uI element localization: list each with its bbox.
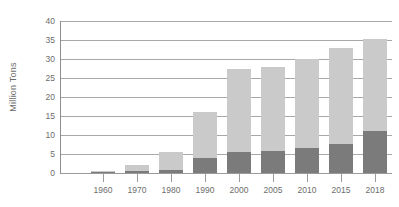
x-axis-tick-mark	[137, 174, 138, 182]
y-axis-tick-label: 25	[33, 74, 55, 82]
y-axis-tick-label: 5	[33, 150, 55, 158]
bar-chart: Million Tons 4035302520151050 1960197019…	[0, 0, 399, 207]
bar-segment-upper	[363, 39, 387, 131]
x-axis-tick-mark	[375, 174, 376, 182]
y-axis-tick-label: 20	[33, 93, 55, 101]
x-axis-tick-mark	[341, 174, 342, 182]
y-axis-tick-label: 40	[33, 17, 55, 25]
x-axis-tick-mark	[171, 174, 172, 182]
y-axis-tick-label: 15	[33, 112, 55, 120]
bar-segment-lower	[295, 148, 319, 173]
bar-segment-upper	[329, 48, 353, 145]
bar-segment-upper	[193, 112, 217, 158]
bar-segment-lower	[329, 144, 353, 173]
bar-segment-lower	[91, 172, 115, 173]
y-axis-tick-label: 35	[33, 36, 55, 44]
gridline	[60, 173, 392, 174]
bar-segment-lower	[227, 152, 251, 173]
bar-segment-lower	[363, 131, 387, 173]
x-axis-tick-mark	[239, 174, 240, 182]
y-axis-tick-label: 10	[33, 131, 55, 139]
x-axis-tick-label: 2018	[355, 185, 395, 195]
bar-segment-lower	[193, 158, 217, 173]
bar-group	[295, 59, 319, 173]
bar-group	[193, 112, 217, 173]
bar-segment-upper	[261, 67, 285, 151]
y-axis-tick-label: 0	[33, 169, 55, 177]
bar-segment-lower	[159, 170, 183, 173]
x-axis-tick-mark	[103, 174, 104, 182]
bar-segment-upper	[295, 59, 319, 148]
x-axis-tick-mark	[205, 174, 206, 182]
bar-series-container	[60, 21, 392, 173]
bar-segment-lower	[261, 151, 285, 173]
bar-group	[159, 152, 183, 173]
plot-area	[60, 21, 392, 173]
y-axis-title-label: Million Tons	[8, 62, 18, 111]
bar-group	[227, 69, 251, 173]
bar-group	[125, 165, 149, 173]
bar-segment-upper	[159, 152, 183, 170]
bar-group	[329, 48, 353, 173]
x-axis-tick-mark	[273, 174, 274, 182]
bar-segment-lower	[125, 171, 149, 173]
bar-group	[261, 67, 285, 173]
bar-group	[91, 171, 115, 173]
y-axis-title: Million Tons	[2, 0, 24, 173]
x-axis-tick-mark	[307, 174, 308, 182]
bar-segment-upper	[227, 69, 251, 152]
bar-group	[363, 39, 387, 173]
y-axis-tick-label: 30	[33, 55, 55, 63]
